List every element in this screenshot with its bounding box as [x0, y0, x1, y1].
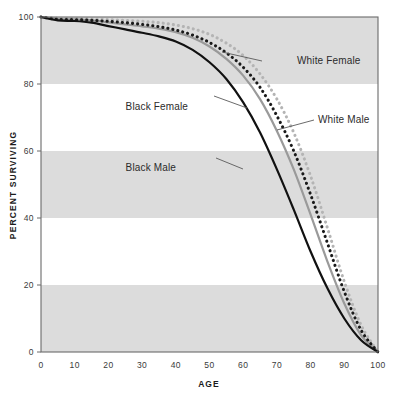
- x-tick-label: 50: [204, 360, 214, 370]
- x-tick-label: 40: [171, 360, 181, 370]
- survival-curve-chart: 020406080100 0102030405060708090100 Whit…: [0, 0, 398, 397]
- x-tick-label: 30: [137, 360, 147, 370]
- x-tick-label: 60: [238, 360, 248, 370]
- x-tick-label: 90: [339, 360, 349, 370]
- y-tick-label: 0: [29, 347, 34, 357]
- x-tick-label: 70: [272, 360, 282, 370]
- y-tick-label: 40: [24, 213, 34, 223]
- y-tick-label: 80: [24, 79, 34, 89]
- background-bands: [41, 17, 378, 352]
- series-annotation-label: White Male: [318, 114, 370, 125]
- x-tick-label: 0: [38, 360, 43, 370]
- y-axis-title: PERCENT SURVIVING: [8, 131, 18, 239]
- x-tick-label: 100: [370, 360, 385, 370]
- chart-page: 020406080100 0102030405060708090100 Whit…: [0, 0, 398, 397]
- y-tick-label: 60: [24, 146, 34, 156]
- x-tick-label: 10: [70, 360, 80, 370]
- y-tick-label: 20: [24, 280, 34, 290]
- x-tick-label: 20: [103, 360, 113, 370]
- background-band: [41, 151, 378, 218]
- y-tick-label: 100: [19, 12, 34, 22]
- x-axis-title: AGE: [198, 379, 220, 389]
- series-annotation-label: Black Male: [126, 162, 177, 173]
- x-tick-label: 80: [305, 360, 315, 370]
- background-band: [41, 285, 378, 352]
- background-band: [41, 17, 378, 84]
- series-annotation-label: Black Female: [126, 101, 189, 112]
- series-annotation-label: White Female: [297, 55, 361, 66]
